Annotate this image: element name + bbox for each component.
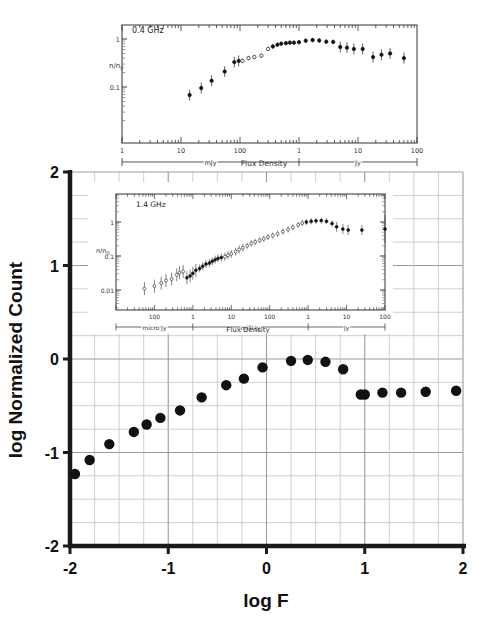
inset-top-data-point: [237, 59, 240, 62]
inset-bottom-data-point: [170, 278, 173, 281]
inset-top-band-label-left: mJy: [204, 159, 216, 167]
inset-top-frame: [122, 25, 417, 166]
inset-bottom-data-point: [160, 282, 163, 285]
main-x-tick-label: 0: [262, 560, 271, 577]
inset-bottom-data-point: [325, 220, 328, 223]
inset-bottom-data-point: [347, 229, 350, 232]
inset-bottom-data-point: [198, 267, 201, 270]
inset-bottom-data-point: [301, 222, 304, 225]
main-x-tick-label: 1: [360, 560, 369, 577]
inset-top-data-point: [276, 43, 279, 46]
inset-bottom-data-point: [241, 246, 244, 249]
inset-bottom-data-point: [271, 234, 274, 237]
inset-bottom-data-point: [165, 279, 168, 282]
inset-bottom-data-point: [226, 254, 229, 257]
inset-top-x-tick-label: 1: [297, 147, 301, 155]
main-data-point: [239, 373, 249, 383]
inset-bottom-data-point: [360, 229, 363, 232]
inset-top-data-point: [200, 86, 203, 89]
inset-top-band-label-right: Jy: [354, 159, 361, 167]
main-data-point: [196, 392, 206, 402]
inset-bottom-data-point: [194, 269, 197, 272]
inset-bottom-plot-frame: [116, 194, 385, 310]
inset-bottom-data-point: [182, 270, 185, 273]
inset-top-data-point: [352, 47, 355, 50]
main-data-point: [175, 405, 185, 415]
inset-bottom-svg: 10.10.01100110100110100micro Jymilli JyJ…: [88, 182, 393, 334]
main-data-point: [420, 387, 430, 397]
inset-top-data-point: [292, 41, 295, 44]
inset-top-y-tick-label: 0.1: [110, 84, 120, 92]
inset-bottom-data-point: [205, 263, 208, 266]
inset-bottom-data-point: [178, 271, 181, 274]
inset-top-x-tick-label: 100: [411, 147, 423, 155]
inset-top-data-point: [271, 45, 274, 48]
main-y-tick-label: 2: [50, 164, 59, 181]
inset-top-data-point: [345, 46, 348, 49]
inset-bottom-data-point: [335, 225, 338, 228]
inset-top-data-point: [253, 55, 256, 58]
inset-bottom-y-axis-label: n/n0: [96, 247, 110, 256]
inset-top-data-point: [318, 39, 321, 42]
inset-top-x-axis-label: Flux Density: [241, 159, 288, 168]
inset-top-data-point: [284, 41, 287, 44]
main-data-point: [155, 413, 165, 423]
inset-top-x-tick-label: 1: [120, 147, 124, 155]
inset-bottom-data-point: [185, 276, 188, 279]
inset-bottom-data-point: [331, 222, 334, 225]
inset-bottom-data-point: [297, 223, 300, 226]
inset-bottom-data-point: [281, 230, 284, 233]
main-data-point: [303, 355, 313, 365]
figure-root: -2-1012-2-1012 log Normalized Count log …: [0, 0, 487, 627]
inset-bottom-band-label-right: Jy: [343, 324, 350, 332]
inset-bottom-tick-labels: 10.10.01100110100110100micro Jymilli JyJ…: [101, 219, 391, 332]
inset-panel-1p4ghz: 10.10.01100110100110100micro Jymilli JyJ…: [88, 182, 393, 334]
inset-bottom-data-point: [220, 256, 223, 259]
inset-bottom-data-point: [153, 285, 156, 288]
inset-top-data-point: [402, 56, 405, 59]
inset-bottom-data-point: [230, 252, 233, 255]
main-data-point: [377, 387, 387, 397]
inset-bottom-data-point: [320, 219, 323, 222]
main-data-point: [451, 386, 461, 396]
inset-bottom-data-point: [211, 260, 214, 263]
inset-bottom-data-point: [266, 236, 269, 239]
inset-top-y-tick-label: 1: [116, 36, 120, 44]
inset-bottom-data-points: [143, 215, 387, 295]
inset-bottom-data-point: [238, 248, 241, 251]
inset-bottom-data-point: [341, 228, 344, 231]
inset-top-data-point: [311, 38, 314, 41]
inset-top-tick-labels: 10.1110100110100mJyJy: [110, 36, 424, 167]
inset-bottom-data-point: [143, 287, 146, 290]
main-data-point: [84, 455, 94, 465]
inset-top-data-point: [332, 40, 335, 43]
inset-bottom-data-point: [250, 242, 253, 245]
inset-bottom-x-tick-label: 10: [227, 313, 235, 320]
inset-top-data-point: [266, 47, 269, 50]
inset-bottom-x-tick-label: 100: [379, 313, 391, 320]
inset-bottom-data-point: [201, 265, 204, 268]
inset-bottom-x-tick-label: 100: [149, 313, 161, 320]
inset-bottom-x-tick-label: 1: [191, 313, 195, 320]
inset-top-data-point: [304, 39, 307, 42]
inset-bottom-data-point: [223, 255, 226, 258]
inset-top-data-point: [361, 47, 364, 50]
main-y-tick-label: 0: [50, 351, 59, 368]
inset-top-x-tick-label: 10: [177, 147, 185, 155]
inset-top-data-point: [223, 70, 226, 73]
inset-top-title: 0.4 GHz: [132, 26, 164, 35]
inset-bottom-data-point: [287, 228, 290, 231]
main-data-point: [129, 427, 139, 437]
inset-top-data-point: [380, 53, 383, 56]
inset-bottom-data-point: [276, 232, 279, 235]
main-data-point: [396, 387, 406, 397]
inset-bottom-data-point: [191, 272, 194, 275]
main-x-tick-label: -2: [63, 560, 77, 577]
main-data-point: [257, 362, 267, 372]
inset-top-data-point: [297, 40, 300, 43]
inset-top-data-point: [210, 79, 213, 82]
inset-bottom-x-tick-label: 1: [306, 313, 310, 320]
inset-top-data-point: [371, 55, 374, 58]
inset-top-data-point: [288, 41, 291, 44]
inset-top-x-tick-label: 10: [354, 147, 362, 155]
